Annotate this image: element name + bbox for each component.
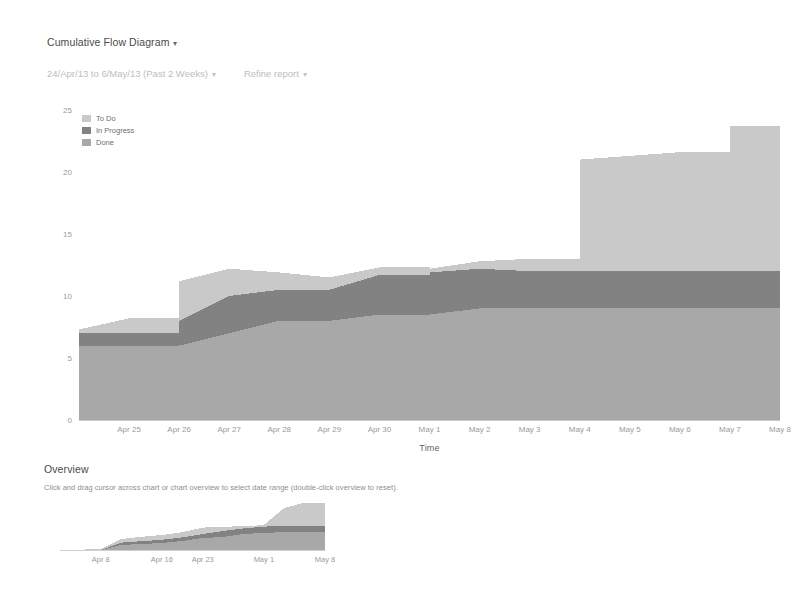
overview-x-axis-ticks: Apr 8Apr 16Apr 23May 1May 8 — [60, 555, 325, 569]
overview-x-axis-tick-label: Apr 8 — [92, 555, 110, 564]
overview-x-axis-tick-label: May 1 — [254, 555, 274, 564]
x-axis-tick-label: Apr 29 — [318, 425, 342, 434]
chart-plot-area[interactable] — [79, 110, 780, 420]
y-axis-tick-label: 25 — [4, 106, 72, 115]
cumulative-flow-chart[interactable]: Number of Issues 0510152025 Apr 25Apr 26… — [0, 0, 806, 470]
legend-item[interactable]: To Do — [82, 114, 134, 123]
x-axis-tick-label: Apr 26 — [167, 425, 191, 434]
x-axis-tick-label: May 4 — [569, 425, 591, 434]
legend-item[interactable]: Done — [82, 138, 134, 147]
legend-item-label: In Progress — [96, 126, 134, 135]
y-axis-tick-label: 10 — [4, 292, 72, 301]
x-axis-ticks: Apr 25Apr 26Apr 27Apr 28Apr 29Apr 30May … — [79, 425, 780, 441]
y-axis-tick-label: 15 — [4, 230, 72, 239]
x-axis-tick-label: May 3 — [519, 425, 541, 434]
x-axis-tick-label: May 7 — [719, 425, 741, 434]
x-axis-tick-label: May 1 — [419, 425, 441, 434]
legend-swatch-icon — [82, 139, 91, 146]
overview-heading: Overview — [44, 463, 89, 475]
chart-legend: To DoIn ProgressDone — [82, 114, 134, 147]
stacked-area-svg — [79, 110, 780, 420]
x-axis-tick-label: May 5 — [619, 425, 641, 434]
x-axis-tick-label: Apr 30 — [368, 425, 392, 434]
cumulative-flow-report-page: Cumulative Flow Diagram▾ 24/Apr/13 to 6/… — [0, 0, 806, 608]
x-axis-tick-label: May 2 — [469, 425, 491, 434]
legend-swatch-icon — [82, 115, 91, 122]
y-axis-tick-label: 20 — [4, 168, 72, 177]
overview-x-axis-tick-label: Apr 23 — [192, 555, 214, 564]
legend-item-label: Done — [96, 138, 114, 147]
x-axis-tick-label: May 8 — [769, 425, 791, 434]
legend-item-label: To Do — [96, 114, 116, 123]
overview-x-axis-line — [60, 550, 325, 551]
x-axis-line — [79, 420, 780, 421]
overview-x-axis-tick-label: Apr 16 — [151, 555, 173, 564]
overview-x-axis-tick-label: May 8 — [315, 555, 335, 564]
legend-swatch-icon — [82, 127, 91, 134]
y-axis-tick-label: 5 — [4, 354, 72, 363]
legend-item[interactable]: In Progress — [82, 126, 134, 135]
x-axis-title: Time — [79, 443, 780, 453]
overview-hint-text: Click and drag cursor across chart or ch… — [44, 483, 398, 492]
overview-plot-area[interactable] — [60, 500, 325, 550]
y-axis-tick-label: 0 — [4, 416, 72, 425]
x-axis-tick-label: Apr 27 — [217, 425, 241, 434]
x-axis-tick-label: Apr 28 — [267, 425, 291, 434]
x-axis-tick-label: Apr 25 — [117, 425, 141, 434]
x-axis-tick-label: May 6 — [669, 425, 691, 434]
overview-stacked-area-svg — [60, 500, 325, 550]
